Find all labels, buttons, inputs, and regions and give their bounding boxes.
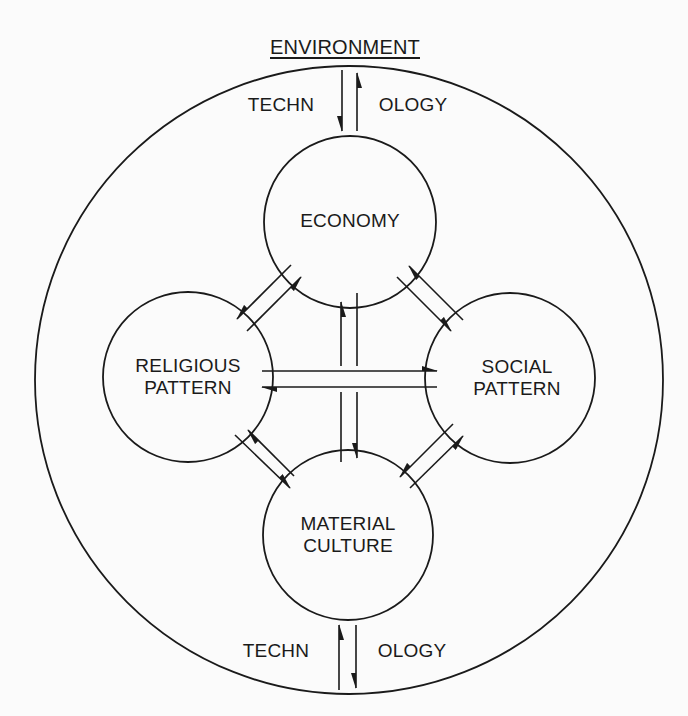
arrow-economy-to-social	[397, 277, 451, 331]
environment-title: ENVIRONMENT	[255, 36, 435, 58]
arrow-social-to-economy	[409, 266, 463, 320]
arrow-religious-to-material	[235, 435, 290, 488]
religious-pattern-label: RELIGIOUS PATTERN	[108, 355, 268, 399]
diagram-canvas: ENVIRONMENT TECHN OLOGY ECONOMY RELIGIOU…	[0, 0, 688, 716]
material-label-line2: CULTURE	[268, 535, 428, 557]
social-label-line2: PATTERN	[437, 378, 597, 400]
social-label-line1: SOCIAL	[437, 356, 597, 378]
arrow-material-to-social	[410, 436, 463, 488]
top-technology-left: TECHN	[241, 94, 321, 116]
religious-label-line2: PATTERN	[108, 377, 268, 399]
top-technology-right: OLOGY	[373, 94, 453, 116]
arrow-religious-to-economy	[247, 277, 301, 331]
material-culture-label: MATERIAL CULTURE	[268, 513, 428, 557]
economy-label-text: ECONOMY	[300, 210, 400, 231]
social-pattern-label: SOCIAL PATTERN	[437, 356, 597, 400]
economy-label: ECONOMY	[270, 210, 430, 232]
material-label-line1: MATERIAL	[268, 513, 428, 535]
bottom-technology-left: TECHN	[236, 640, 316, 662]
religious-label-line1: RELIGIOUS	[108, 355, 268, 377]
bottom-technology-right: OLOGY	[372, 640, 452, 662]
arrow-economy-to-religious	[237, 265, 291, 319]
arrow-social-to-material	[400, 424, 453, 477]
